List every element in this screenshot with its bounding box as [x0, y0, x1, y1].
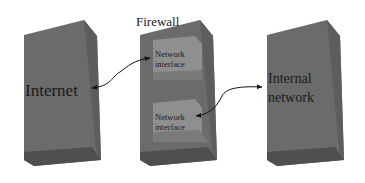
interface-1-line1: Network: [155, 49, 185, 59]
network-interface-2: Network interface: [153, 99, 208, 142]
firewall-diagram: Internet Firewall Network interface Netw…: [0, 0, 365, 183]
internal-label-line1: Internal: [268, 71, 312, 86]
firewall-label: Firewall: [136, 14, 180, 29]
internal-network-box: Internal network: [267, 20, 344, 166]
internal-label-line2: network: [268, 90, 314, 105]
interface-2-line2: interface: [155, 122, 185, 132]
internet-label: Internet: [25, 81, 78, 100]
network-interface-1: Network interface: [153, 36, 202, 80]
firewall-box: Firewall Network interface Network inter…: [136, 14, 217, 166]
interface-1-line2: interface: [155, 59, 185, 69]
interface-2-line1: Network: [155, 112, 185, 122]
internet-box: Internet: [24, 20, 101, 166]
